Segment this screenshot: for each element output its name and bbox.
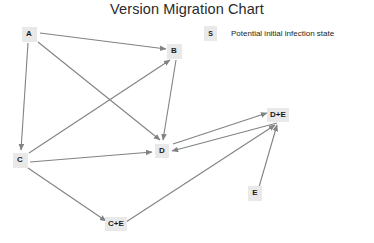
graph-node-d[interactable]: D [155,144,169,158]
edge-A-to-B [40,33,166,49]
legend-label: Potential initial infection state [231,29,334,38]
edge-B-to-D [163,60,176,140]
diagram-canvas: Version Migration Chart ABCDD+EEC+E S Po… [0,0,374,243]
edge-C-to-D [30,152,152,162]
graph-node-a[interactable]: A [22,27,37,42]
edge-CE-to-DE [126,125,275,222]
edge-A-to-D [38,42,160,140]
graph-node-c[interactable]: C [13,153,28,168]
graph-node-e[interactable]: E [248,186,262,201]
edge-A-to-C [21,43,28,150]
graph-node-b[interactable]: B [167,44,182,59]
edge-C-to-CE [28,168,106,221]
legend: S Potential initial infection state [204,25,370,41]
edges [21,33,277,222]
graph-node-ce[interactable]: C+E [105,217,127,231]
graph-node-de[interactable]: D+E [267,108,289,122]
edge-C-to-B [29,60,170,153]
legend-swatch-s: S [204,26,217,41]
